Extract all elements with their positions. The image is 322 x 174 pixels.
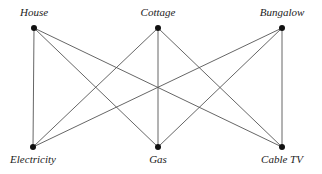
node-label-house: House bbox=[20, 6, 48, 18]
node-label-electricity: Electricity bbox=[10, 153, 56, 165]
node-gas bbox=[155, 144, 161, 150]
node-label-cottage: Cottage bbox=[141, 6, 176, 18]
node-electricity bbox=[30, 144, 36, 150]
node-cottage bbox=[155, 25, 161, 31]
node-bungalow bbox=[279, 25, 285, 31]
node-label-bungalow: Bungalow bbox=[260, 6, 305, 18]
node-house bbox=[31, 25, 37, 31]
graph-canvas bbox=[0, 0, 322, 174]
node-label-cabletv: Cable TV bbox=[261, 153, 303, 165]
node-label-gas: Gas bbox=[149, 153, 167, 165]
edge-house-electricity bbox=[33, 28, 34, 147]
node-cabletv bbox=[279, 144, 285, 150]
